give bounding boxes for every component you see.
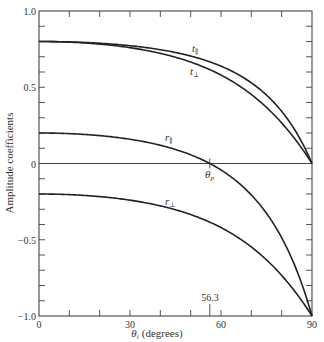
label-brewster-value: 56.3	[201, 292, 219, 303]
y-tick-label: −0.5	[18, 235, 36, 246]
label-t-parallel: t∥	[192, 42, 198, 56]
curve-t∥	[39, 42, 312, 164]
y-axis-title: Amplitude coefficients	[3, 113, 15, 214]
x-tick-label: 0	[37, 319, 42, 330]
curve-r⊥	[39, 194, 312, 316]
label-brewster-angle: θp	[205, 168, 214, 182]
label-r-perp: r⊥	[165, 195, 176, 209]
x-axis-title: θi(degrees)	[131, 327, 183, 341]
curve-r∥	[39, 133, 312, 316]
x-tick-label: 90	[307, 319, 317, 330]
y-tick-label: 0.5	[24, 82, 37, 93]
label-t-perp: t⊥	[190, 65, 200, 79]
curves	[39, 42, 312, 317]
curve-t⊥	[39, 42, 312, 164]
x-tick-label: 60	[216, 319, 226, 330]
y-tick-label: −1.0	[18, 311, 36, 322]
y-tick-label: 1.0	[24, 6, 37, 17]
fresnel-coefficients-chart: 1.00.50−0.5−1.0 0306090 t∥ t⊥ r∥ r⊥ θp 5…	[0, 0, 324, 342]
y-tick-labels: 1.00.50−0.5−1.0	[18, 6, 36, 322]
label-r-parallel: r∥	[165, 131, 173, 145]
y-tick-label: 0	[31, 159, 36, 170]
